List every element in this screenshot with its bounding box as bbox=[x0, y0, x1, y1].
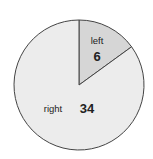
pie-slices bbox=[14, 20, 144, 150]
slice-category-label: left bbox=[91, 35, 104, 46]
pie-chart: left 6 right 34 bbox=[0, 0, 153, 159]
slice-category-label: right bbox=[44, 103, 63, 114]
slice-value-label: 6 bbox=[93, 49, 100, 64]
slice-value-label: 34 bbox=[80, 101, 95, 116]
